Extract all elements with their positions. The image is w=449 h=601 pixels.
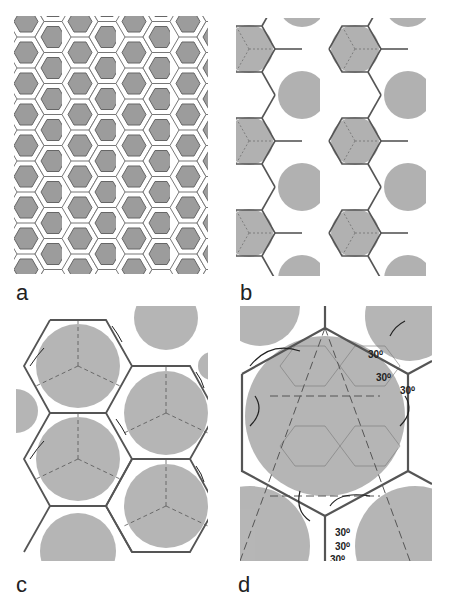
angle-label: 30⁰ <box>335 541 350 552</box>
hexagon-lattice-circles-figure <box>236 18 430 276</box>
hexagon-tiling-figure <box>14 16 208 274</box>
panel-c <box>16 306 208 561</box>
angle-label: 30⁰ <box>330 554 345 561</box>
panel-d: 30⁰ 30⁰ 30⁰ 30⁰ 30⁰ 30⁰ <box>240 306 432 561</box>
single-hexagon-rotation-figure: 30⁰ 30⁰ 30⁰ 30⁰ 30⁰ 30⁰ <box>240 306 432 561</box>
panel-label-a: a <box>16 280 28 306</box>
angle-label: 30⁰ <box>335 527 350 538</box>
angle-label: 30⁰ <box>400 385 415 396</box>
angle-label: 30⁰ <box>368 349 383 360</box>
panel-label-c: c <box>16 572 27 598</box>
large-hexagon-lattice-figure <box>16 306 208 561</box>
panel-label-b: b <box>240 280 252 306</box>
panel-a <box>14 16 208 274</box>
panel-b <box>236 18 430 276</box>
angle-label: 30⁰ <box>376 372 391 383</box>
panel-label-d: d <box>238 572 250 598</box>
